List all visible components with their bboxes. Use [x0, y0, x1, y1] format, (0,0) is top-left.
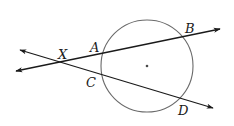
circle-center-dot [146, 65, 149, 68]
label-x: X [57, 47, 68, 62]
label-b: B [184, 21, 195, 36]
label-a: A [89, 40, 99, 55]
line-cd [20, 50, 213, 108]
secant-diagram: X A B C D [0, 0, 234, 126]
label-c: C [86, 75, 96, 90]
label-d: D [177, 103, 189, 118]
